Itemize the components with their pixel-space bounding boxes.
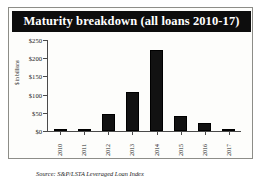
x-axis-line	[47, 131, 241, 132]
y-tick-label: $100	[29, 91, 42, 98]
x-label-slot: 2011	[72, 133, 96, 153]
chart-plot-wrapper: $ in billions $0$50$100$150$200$250 2010…	[12, 33, 251, 157]
x-label-slot: 2015	[169, 133, 193, 153]
bar-2012	[102, 114, 115, 131]
x-tick-label-2010: 2010	[57, 144, 63, 156]
x-label-slot: 2016	[193, 133, 217, 153]
bar-2015	[174, 116, 187, 131]
bar-slot	[96, 40, 120, 131]
bar-2011	[78, 129, 91, 131]
x-tick-label-2012: 2012	[105, 144, 111, 156]
y-tick-label: $150	[29, 73, 42, 80]
x-tick-label-2015: 2015	[178, 144, 184, 156]
x-tick-mark	[84, 132, 85, 135]
y-tick-label: $50	[32, 109, 42, 116]
x-tick-mark	[132, 132, 133, 135]
bar-2016	[198, 123, 211, 131]
x-tick-label-2014: 2014	[154, 144, 160, 156]
x-tick-label-2011: 2011	[81, 144, 87, 156]
bar-slot	[193, 40, 217, 131]
plot-area: $0$50$100$150$200$250	[47, 40, 241, 132]
y-axis-title: $ in billions	[14, 60, 20, 85]
bar-2014	[150, 50, 163, 131]
y-tick-label: $250	[29, 37, 42, 44]
x-label-slot: 2017	[217, 133, 241, 153]
bar-2017	[222, 129, 235, 131]
x-label-slot: 2013	[120, 133, 144, 153]
x-tick-mark	[60, 132, 61, 135]
x-tick-mark	[157, 132, 158, 135]
x-label-slot: 2012	[96, 133, 120, 153]
bar-slot	[120, 40, 144, 131]
x-label-slot: 2014	[145, 133, 169, 153]
x-tick-label-2017: 2017	[226, 144, 232, 156]
bar-slot	[169, 40, 193, 131]
x-tick-mark	[229, 132, 230, 135]
y-tick-mark	[43, 131, 48, 132]
y-tick-label: $200	[29, 55, 42, 62]
bar-slot	[72, 40, 96, 131]
page-title: Maturity breakdown (all loans 2010-17)	[23, 14, 239, 29]
x-label-slot: 2010	[48, 133, 72, 153]
bar-series	[48, 40, 241, 131]
x-tick-mark	[108, 132, 109, 135]
bar-slot	[145, 40, 169, 131]
x-tick-label-2013: 2013	[129, 144, 135, 156]
bar-slot	[217, 40, 241, 131]
bar-2013	[126, 92, 139, 131]
chart-title-bar: Maturity breakdown (all loans 2010-17)	[12, 11, 251, 32]
figure-card: Maturity breakdown (all loans 2010-17) $…	[8, 7, 253, 159]
y-tick-label: $0	[35, 128, 42, 135]
x-tick-mark	[205, 132, 206, 135]
x-tick-label-2016: 2016	[202, 144, 208, 156]
bar-2010	[54, 129, 67, 131]
x-axis-labels: 20102011201220132014201520162017	[48, 133, 241, 153]
bar-slot	[48, 40, 72, 131]
x-tick-mark	[181, 132, 182, 135]
